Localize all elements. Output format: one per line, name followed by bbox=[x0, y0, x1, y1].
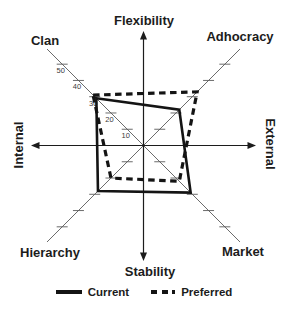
legend: Current Preferred bbox=[0, 286, 288, 298]
solid-line-sample-icon bbox=[56, 290, 82, 294]
legend-item-preferred: Preferred bbox=[151, 286, 232, 298]
axis-label-market: Market bbox=[222, 244, 264, 259]
axis-label-hierarchy: Hierarchy bbox=[20, 245, 80, 260]
axis-label-flexibility: Flexibility bbox=[114, 13, 174, 28]
legend-item-current: Current bbox=[56, 286, 130, 298]
axis-label-external: External bbox=[263, 118, 278, 169]
svg-text:50: 50 bbox=[57, 66, 65, 75]
svg-text:10: 10 bbox=[122, 131, 130, 140]
dashed-line-sample-icon bbox=[151, 290, 175, 294]
svg-text:20: 20 bbox=[105, 115, 113, 124]
radar-chart-figure: 1020304050 Flexibility Stability Interna… bbox=[0, 0, 288, 313]
svg-text:40: 40 bbox=[73, 82, 81, 91]
axis-label-internal: Internal bbox=[11, 122, 26, 169]
axis-label-stability: Stability bbox=[125, 264, 176, 279]
legend-label-preferred: Preferred bbox=[181, 286, 232, 298]
legend-label-current: Current bbox=[88, 286, 130, 298]
axis-label-adhocracy: Adhocracy bbox=[206, 29, 273, 44]
axis-label-clan: Clan bbox=[31, 33, 59, 48]
